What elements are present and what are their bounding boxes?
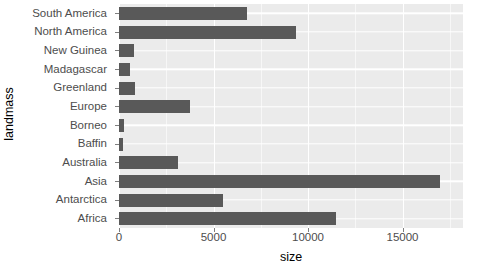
y-axis-title-text: landmass: [2, 87, 16, 141]
y-axis-tick-label: Australia: [62, 157, 107, 169]
bar: [119, 100, 190, 113]
y-axis-tick-label: Asia: [85, 176, 107, 188]
bar-row: [119, 116, 463, 135]
x-axis-tick-label: 5000: [201, 232, 227, 244]
y-axis-tick-label: Baffin: [78, 138, 107, 150]
bar-row: [119, 191, 463, 210]
bar-row: [119, 172, 463, 191]
y-axis-tick-label: South America: [32, 8, 107, 20]
bar: [119, 212, 336, 225]
x-axis-title: size: [119, 250, 463, 264]
y-axis-tick-labels: South AmericaNorth AmericaNew GuineaMada…: [18, 4, 111, 228]
bar: [119, 119, 124, 132]
bar: [119, 82, 135, 95]
y-axis-tick-label: Africa: [78, 213, 107, 225]
bar-row: [119, 60, 463, 79]
y-axis-tick-label: Greenland: [53, 82, 107, 94]
bar-row: [119, 153, 463, 172]
bar: [119, 156, 178, 169]
x-axis-tick-labels: 050001000015000: [119, 232, 463, 247]
bar: [119, 26, 296, 39]
bar-chart: landmass South AmericaNorth AmericaNew G…: [0, 0, 478, 274]
x-axis-tick-label: 0: [116, 232, 122, 244]
y-axis-tick-label: Europe: [70, 101, 107, 113]
bar: [119, 138, 123, 151]
y-axis-tick-label: Antarctica: [56, 194, 107, 206]
bar: [119, 7, 247, 20]
y-axis-tick-label: New Guinea: [44, 45, 107, 57]
bar: [119, 63, 130, 76]
x-axis-tick-label: 10000: [292, 232, 324, 244]
plot-panel: [119, 4, 463, 228]
bar: [119, 175, 440, 188]
bar-row: [119, 209, 463, 228]
bar-row: [119, 23, 463, 42]
bar-row: [119, 135, 463, 154]
bar: [119, 194, 223, 207]
y-axis-tick-label: Borneo: [70, 120, 107, 132]
bar-row: [119, 41, 463, 60]
y-axis-tick-label: Madagascar: [44, 64, 107, 76]
y-axis-title: landmass: [0, 0, 18, 228]
bar-row: [119, 4, 463, 23]
bar-row: [119, 79, 463, 98]
y-axis-tick-label: North America: [34, 26, 107, 38]
x-axis-tick-label: 15000: [387, 232, 419, 244]
bar: [119, 44, 134, 57]
bar-row: [119, 97, 463, 116]
bar-series: [119, 4, 463, 228]
